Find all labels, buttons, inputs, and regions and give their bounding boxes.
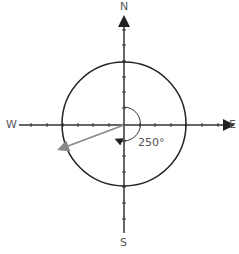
- bearing-vector: [60, 125, 124, 149]
- west-label: W: [6, 119, 17, 130]
- compass-graphic: [0, 0, 239, 254]
- angle-arc: [117, 107, 141, 141]
- angle-label: 250°: [138, 137, 165, 148]
- east-label: E: [229, 119, 236, 130]
- compass-diagram: N E S W 250°: [0, 0, 239, 254]
- north-label: N: [120, 1, 128, 12]
- south-label: S: [120, 237, 127, 248]
